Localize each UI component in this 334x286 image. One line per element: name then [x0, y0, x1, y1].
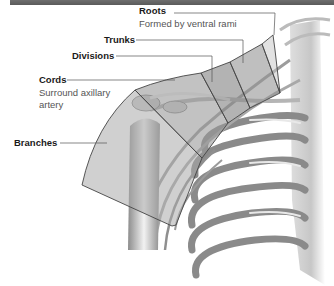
roots-label: Roots [139, 5, 166, 17]
roots-description: Formed by ventral rami [139, 18, 237, 30]
plexus-regions [82, 35, 280, 226]
cords-description-line2: artery [39, 99, 63, 111]
trunks-label: Trunks [104, 34, 135, 46]
trunks-leader [136, 40, 243, 63]
cords-description-line1: Surround axillary [39, 87, 110, 99]
cords-label: Cords [39, 74, 66, 86]
branches-label: Branches [14, 137, 57, 149]
divisions-label: Divisions [72, 50, 114, 62]
